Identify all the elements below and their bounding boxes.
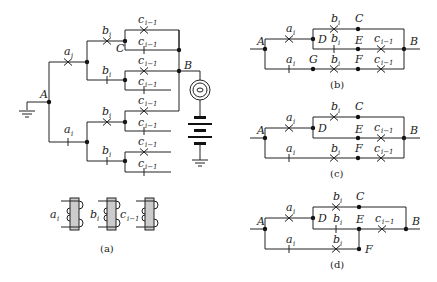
svg-text:c: c: [120, 208, 126, 221]
svg-text:A: A: [256, 35, 265, 48]
svg-text:C: C: [355, 100, 364, 113]
svg-text:i−1: i−1: [145, 141, 158, 149]
svg-text:i: i: [338, 149, 340, 157]
svg-text:a: a: [64, 45, 71, 58]
svg-text:a: a: [50, 208, 57, 221]
svg-text:B: B: [411, 215, 420, 228]
svg-text:E: E: [354, 34, 363, 47]
caption-a: (a): [100, 243, 114, 254]
lamp-icon: [190, 80, 210, 100]
svg-text:C: C: [356, 190, 365, 203]
svg-text:b: b: [333, 233, 340, 246]
svg-text:i−1: i−1: [145, 41, 158, 49]
svg-text:D: D: [317, 122, 327, 135]
ground-icon: [192, 160, 208, 166]
svg-text:a: a: [286, 53, 293, 66]
ground-icon: [19, 102, 49, 117]
svg-text:i: i: [293, 118, 295, 126]
svg-text:i: i: [338, 39, 340, 47]
svg-text:i−1: i−1: [145, 60, 158, 68]
svg-text:i: i: [293, 29, 295, 37]
svg-text:b: b: [331, 142, 338, 155]
svg-text:b: b: [102, 105, 109, 118]
svg-text:c: c: [138, 157, 144, 170]
svg-text:c: c: [138, 94, 144, 107]
relay-ai-icon: [61, 198, 83, 230]
svg-text:c: c: [138, 35, 144, 48]
svg-text:B: B: [183, 59, 192, 72]
label-A: A: [39, 88, 48, 101]
svg-text:a: a: [286, 111, 293, 124]
svg-text:G: G: [309, 53, 318, 66]
relay-ci1-icon: [136, 198, 158, 230]
svg-text:F: F: [354, 142, 363, 155]
svg-text:B: B: [409, 35, 418, 48]
svg-text:B: B: [409, 124, 418, 137]
svg-text:b: b: [331, 12, 338, 25]
svg-text:a: a: [64, 123, 71, 136]
svg-text:i: i: [71, 52, 73, 60]
svg-text:b: b: [102, 64, 109, 77]
svg-text:a: a: [286, 233, 293, 246]
caption-b: (b): [330, 79, 344, 90]
svg-text:i: i: [293, 149, 295, 157]
panel-a-relays: a i b i c i−1: [50, 198, 158, 230]
svg-text:c: c: [138, 135, 144, 148]
svg-text:i−1: i−1: [381, 127, 394, 135]
svg-text:i: i: [109, 71, 111, 79]
svg-text:i−1: i−1: [381, 38, 394, 46]
svg-text:i: i: [338, 107, 340, 115]
svg-text:c: c: [138, 116, 144, 129]
svg-text:c: c: [374, 32, 380, 45]
relay-circuit-figure: A a i b i C c i−1 c i−1 b i c: [0, 0, 437, 282]
svg-text:b: b: [102, 144, 109, 157]
svg-text:b: b: [102, 24, 109, 37]
svg-text:i: i: [97, 215, 99, 223]
svg-text:i−1: i−1: [382, 218, 395, 226]
svg-text:E: E: [355, 213, 364, 226]
svg-text:i−1: i−1: [381, 59, 394, 67]
svg-text:i: i: [71, 130, 73, 138]
svg-text:i−1: i−1: [145, 19, 158, 27]
svg-text:A: A: [256, 124, 265, 137]
svg-text:b: b: [331, 53, 338, 66]
svg-text:b: b: [90, 208, 97, 221]
svg-text:D: D: [317, 212, 327, 225]
svg-text:C: C: [116, 42, 125, 55]
panel-c: ai A D bi C E ci−1 B ai bi F ci−1 (c): [250, 100, 420, 179]
svg-text:i: i: [340, 240, 342, 248]
panel-d: ai A D bi bi C E ci−1 B ai bi F (d): [250, 190, 420, 270]
svg-text:A: A: [256, 215, 265, 228]
relay-bi-icon: [98, 198, 120, 230]
svg-text:c: c: [374, 142, 380, 155]
svg-text:C: C: [355, 12, 364, 25]
svg-text:b: b: [333, 212, 340, 225]
svg-text:a: a: [286, 22, 293, 35]
svg-text:b: b: [333, 190, 340, 203]
svg-text:i: i: [109, 112, 111, 120]
svg-text:c: c: [138, 75, 144, 88]
svg-text:F: F: [364, 243, 373, 256]
svg-text:i−1: i−1: [145, 100, 158, 108]
svg-text:c: c: [138, 13, 144, 26]
svg-text:i: i: [340, 219, 342, 227]
svg-text:i: i: [293, 240, 295, 248]
svg-text:i: i: [109, 31, 111, 39]
svg-text:b: b: [331, 32, 338, 45]
svg-text:F: F: [354, 53, 363, 66]
svg-text:c: c: [375, 212, 381, 225]
svg-text:i: i: [109, 151, 111, 159]
svg-text:c: c: [374, 53, 380, 66]
svg-text:i−1: i−1: [127, 215, 140, 223]
svg-text:a: a: [286, 201, 293, 214]
svg-text:i−1: i−1: [381, 148, 394, 156]
svg-text:c: c: [138, 54, 144, 67]
svg-text:i: i: [338, 60, 340, 68]
caption-c: (c): [330, 168, 344, 179]
svg-text:i−1: i−1: [145, 163, 158, 171]
svg-text:b: b: [331, 100, 338, 113]
svg-text:a: a: [286, 142, 293, 155]
caption-d: (d): [330, 259, 344, 270]
svg-text:i: i: [57, 215, 59, 223]
svg-text:i: i: [293, 60, 295, 68]
